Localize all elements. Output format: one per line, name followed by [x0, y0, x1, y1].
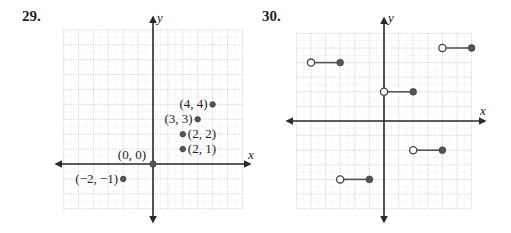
closed-endpoint [468, 45, 475, 52]
open-endpoint [410, 147, 417, 154]
figure-canvas: x y (0, 0)(2, 1)(2, 2)(3, 3)(4, 4)(−2, −… [0, 0, 511, 233]
point-label: (2, 2) [188, 126, 216, 141]
point-label: (−2, −1) [75, 171, 118, 186]
data-point [120, 176, 126, 182]
open-endpoint [307, 59, 314, 66]
data-point [195, 117, 201, 123]
data-point [180, 131, 186, 137]
closed-endpoint [439, 147, 446, 154]
graph-29: x y (0, 0)(2, 1)(2, 2)(3, 3)(4, 4)(−2, −… [56, 10, 254, 222]
y-axis-label: y [155, 10, 163, 25]
point-label: (3, 3) [165, 111, 193, 126]
closed-endpoint [410, 88, 417, 95]
open-endpoint [337, 176, 344, 183]
closed-endpoint [366, 176, 373, 183]
point-label: (0, 0) [118, 147, 146, 162]
closed-endpoint [337, 59, 344, 66]
data-point [150, 161, 156, 167]
open-endpoint [439, 44, 446, 51]
data-point [210, 102, 216, 108]
x-axis-label: x [247, 147, 254, 162]
point-label: (4, 4) [179, 96, 207, 111]
open-endpoint [380, 88, 387, 95]
data-point [180, 146, 186, 152]
y-axis-label: y [386, 10, 394, 25]
graph-30: x y [287, 10, 486, 222]
point-label: (2, 1) [188, 141, 216, 156]
x-axis-label: x [479, 103, 486, 118]
